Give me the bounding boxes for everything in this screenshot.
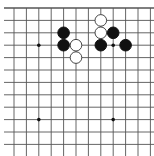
black-stone [120, 39, 132, 51]
star-point [37, 118, 41, 122]
black-stone [58, 39, 70, 51]
star-point [37, 43, 41, 47]
black-stone [58, 27, 70, 39]
white-stone [95, 27, 107, 39]
stones [58, 15, 132, 64]
star-point [111, 118, 115, 122]
board-grid [4, 8, 154, 156]
star-point [111, 43, 115, 47]
white-stone [70, 52, 82, 64]
black-stone [107, 27, 119, 39]
black-stone [95, 39, 107, 51]
go-board[interactable] [0, 0, 154, 156]
white-stone [70, 39, 82, 51]
white-stone [95, 15, 107, 27]
